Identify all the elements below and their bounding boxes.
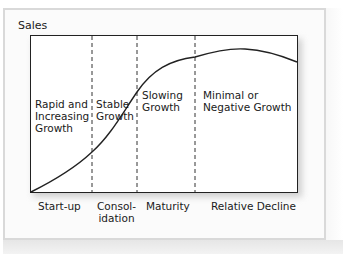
stage-label-consolidation: Consol- idation [97, 200, 136, 224]
phase-label-minimal-growth: Minimal or Negative Growth [203, 89, 291, 113]
phase-label-rapid-growth: Rapid and Increasing Growth [35, 98, 89, 134]
stage-label-startup: Start-up [38, 200, 81, 212]
phase-label-stable-growth: Stable Growth [96, 98, 134, 122]
stage-label-maturity: Maturity [146, 200, 190, 212]
stage-label-relative-decline: Relative Decline [211, 200, 296, 212]
phase-label-slowing-growth: Slowing Growth [142, 89, 183, 113]
